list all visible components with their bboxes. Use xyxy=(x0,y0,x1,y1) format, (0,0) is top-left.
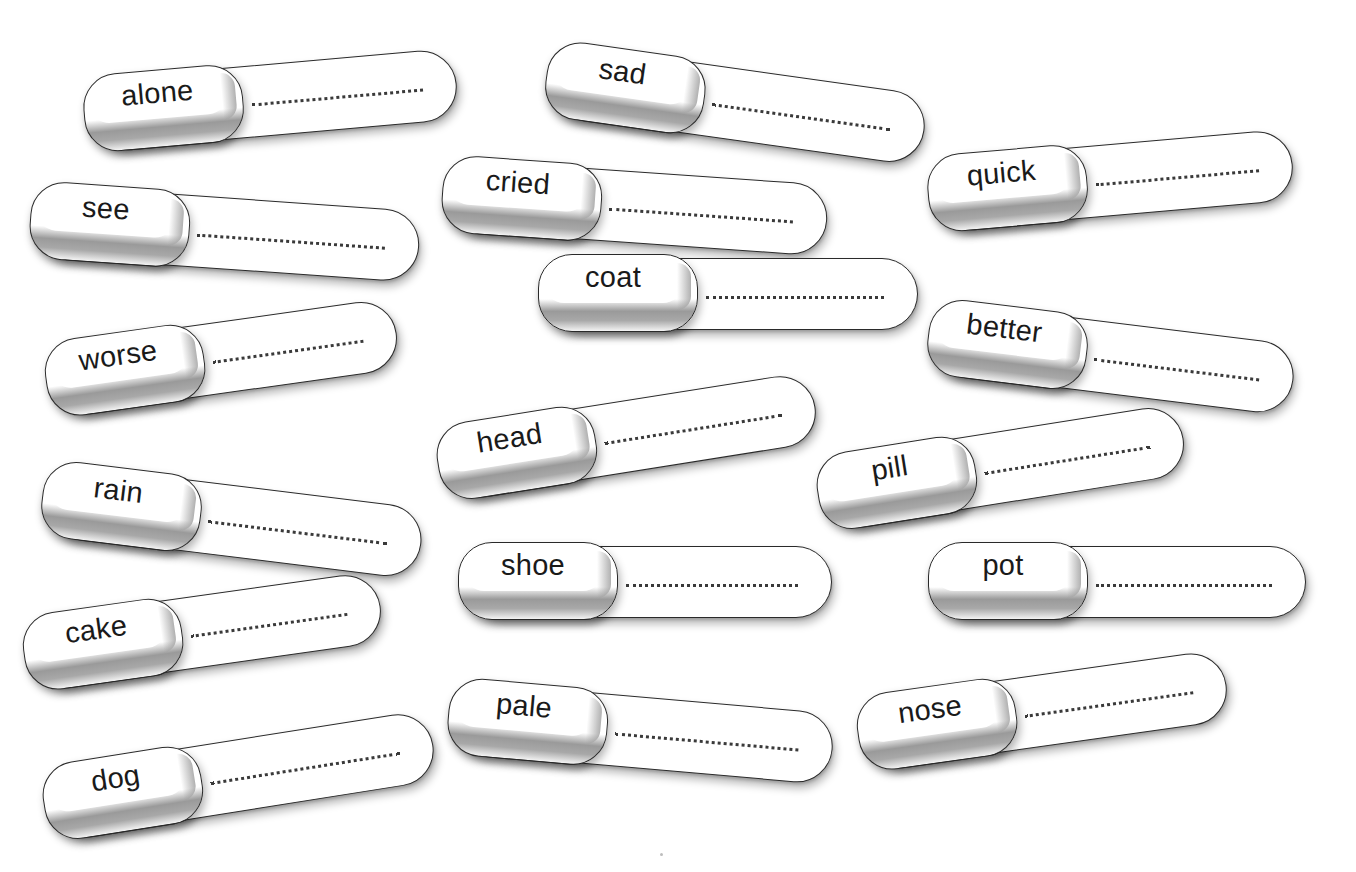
word-label: cake xyxy=(20,597,173,663)
word-tag-rain[interactable]: rain xyxy=(40,462,426,580)
word-chip: quick xyxy=(925,142,1091,234)
stray-speck xyxy=(660,853,663,856)
answer-writing-line[interactable] xyxy=(706,296,884,299)
word-chip: alone xyxy=(81,62,247,154)
word-chip: nose xyxy=(852,674,1021,774)
word-tag-worse[interactable]: worse xyxy=(43,297,402,417)
word-chip: shoe xyxy=(458,542,618,620)
word-tag-pot[interactable]: pot xyxy=(930,546,1306,618)
word-chip: cried xyxy=(439,154,604,243)
word-chip: rain xyxy=(37,458,205,555)
word-chip: coat xyxy=(538,254,698,332)
word-chip: sad xyxy=(541,38,710,138)
worksheet-canvas: alonesadquickseecriedcoatbetterworserain… xyxy=(0,0,1356,872)
word-tag-cake[interactable]: cake xyxy=(21,571,386,692)
word-tag-shoe[interactable]: shoe xyxy=(460,546,832,618)
word-tag-dog[interactable]: dog xyxy=(40,709,438,841)
word-label: better xyxy=(928,297,1080,360)
word-tag-sad[interactable]: sad xyxy=(543,42,929,166)
word-label: coat xyxy=(539,255,687,301)
word-tag-see[interactable]: see xyxy=(29,184,421,283)
word-chip: better xyxy=(923,296,1091,393)
word-tag-quick[interactable]: quick xyxy=(927,128,1296,231)
word-chip: worse xyxy=(40,320,209,420)
answer-writing-line[interactable] xyxy=(1096,584,1272,587)
word-chip: pale xyxy=(445,676,611,768)
answer-writing-line[interactable] xyxy=(626,584,798,587)
word-tag-pill[interactable]: pill xyxy=(814,403,1189,532)
word-tag-better[interactable]: better xyxy=(926,300,1298,416)
word-chip: head xyxy=(432,402,602,504)
word-tag-pale[interactable]: pale xyxy=(447,680,836,785)
word-tag-cried[interactable]: cried xyxy=(441,158,829,257)
word-tag-alone[interactable]: alone xyxy=(83,48,460,152)
word-label: sad xyxy=(546,39,699,105)
word-label: worse xyxy=(42,323,195,389)
word-tag-head[interactable]: head xyxy=(434,371,821,502)
word-chip: pill xyxy=(812,432,982,534)
word-chip: cake xyxy=(18,594,187,694)
word-chip: pot xyxy=(928,542,1088,620)
word-label: shoe xyxy=(459,543,607,589)
word-tag-nose[interactable]: nose xyxy=(855,649,1231,772)
word-label: pot xyxy=(929,543,1077,589)
word-label: nose xyxy=(854,677,1007,743)
word-chip: see xyxy=(27,180,192,269)
word-chip: dog xyxy=(38,742,208,844)
word-label: rain xyxy=(42,459,194,522)
word-tag-coat[interactable]: coat xyxy=(540,258,918,330)
